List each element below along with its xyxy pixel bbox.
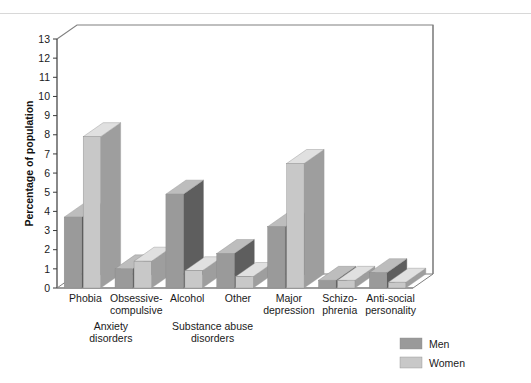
- bar-women-3-front: [236, 277, 254, 288]
- bar-men-3-front: [217, 254, 235, 288]
- bar-men-5-front: [318, 280, 336, 288]
- category-label-6-1: personality: [365, 304, 417, 316]
- y-tick-label-12: 12: [38, 52, 50, 64]
- group-label-0-1: disorders: [89, 332, 132, 344]
- bar-women-4-side: [304, 150, 324, 289]
- bar-chart: 012345678910111213Percentage of populati…: [0, 0, 531, 383]
- bar-women-5-front: [337, 280, 355, 288]
- plot-back-wall: [77, 25, 433, 274]
- category-label-1-0: Obsessive-: [110, 292, 163, 304]
- chart-canvas: 012345678910111213Percentage of populati…: [0, 0, 531, 383]
- y-tick-label-10: 10: [38, 90, 50, 102]
- y-tick-label-4: 4: [44, 205, 50, 217]
- bar-women-0: [83, 123, 121, 288]
- group-label-1-0: Substance abuse: [172, 320, 253, 332]
- category-label-5-0: Schizo-: [322, 292, 358, 304]
- y-tick-label-5: 5: [44, 186, 50, 198]
- bar-men-4-front: [268, 227, 286, 288]
- bar-men-6-front: [369, 273, 387, 288]
- category-label-2-0: Alcohol: [170, 292, 204, 304]
- y-tick-label-2: 2: [44, 243, 50, 255]
- category-label-1-1: compulsive: [110, 304, 163, 316]
- bar-men-2-front: [166, 194, 184, 288]
- category-label-0-0: Phobia: [69, 292, 102, 304]
- bar-women-0-front: [83, 137, 101, 288]
- legend-label-women: Women: [429, 357, 465, 369]
- y-tick-label-0: 0: [44, 282, 50, 294]
- bar-women-6-front: [388, 282, 406, 288]
- bar-women-1-front: [134, 261, 152, 288]
- category-label-4-0: Major: [276, 292, 303, 304]
- bar-women-4: [287, 150, 325, 289]
- y-tick-label-8: 8: [44, 128, 50, 140]
- y-tick-label-1: 1: [44, 263, 50, 275]
- y-tick-label-9: 9: [44, 109, 50, 121]
- y-axis-title: Percentage of population: [23, 100, 35, 226]
- category-label-5-1: phrenia: [322, 304, 357, 316]
- y-tick-label-11: 11: [39, 71, 50, 83]
- bar-women-0-side: [101, 123, 121, 288]
- legend-swatch-men: [400, 338, 422, 349]
- group-label-1-1: disorders: [191, 332, 234, 344]
- y-tick-label-6: 6: [44, 167, 50, 179]
- category-label-3-0: Other: [225, 292, 252, 304]
- bar-men-1-front: [115, 269, 132, 288]
- legend-label-men: Men: [429, 338, 450, 350]
- bar-women-4-front: [287, 164, 305, 289]
- bar-men-0-front: [64, 217, 82, 288]
- category-label-4-1: depression: [263, 304, 315, 316]
- legend-swatch-women: [400, 357, 422, 368]
- y-tick-label-7: 7: [44, 148, 50, 160]
- y-tick-label-3: 3: [44, 224, 50, 236]
- bar-women-2-front: [185, 271, 203, 288]
- category-label-6-0: Anti-social: [366, 292, 414, 304]
- group-label-0-0: Anxiety: [94, 320, 129, 332]
- y-tick-label-13: 13: [38, 33, 50, 45]
